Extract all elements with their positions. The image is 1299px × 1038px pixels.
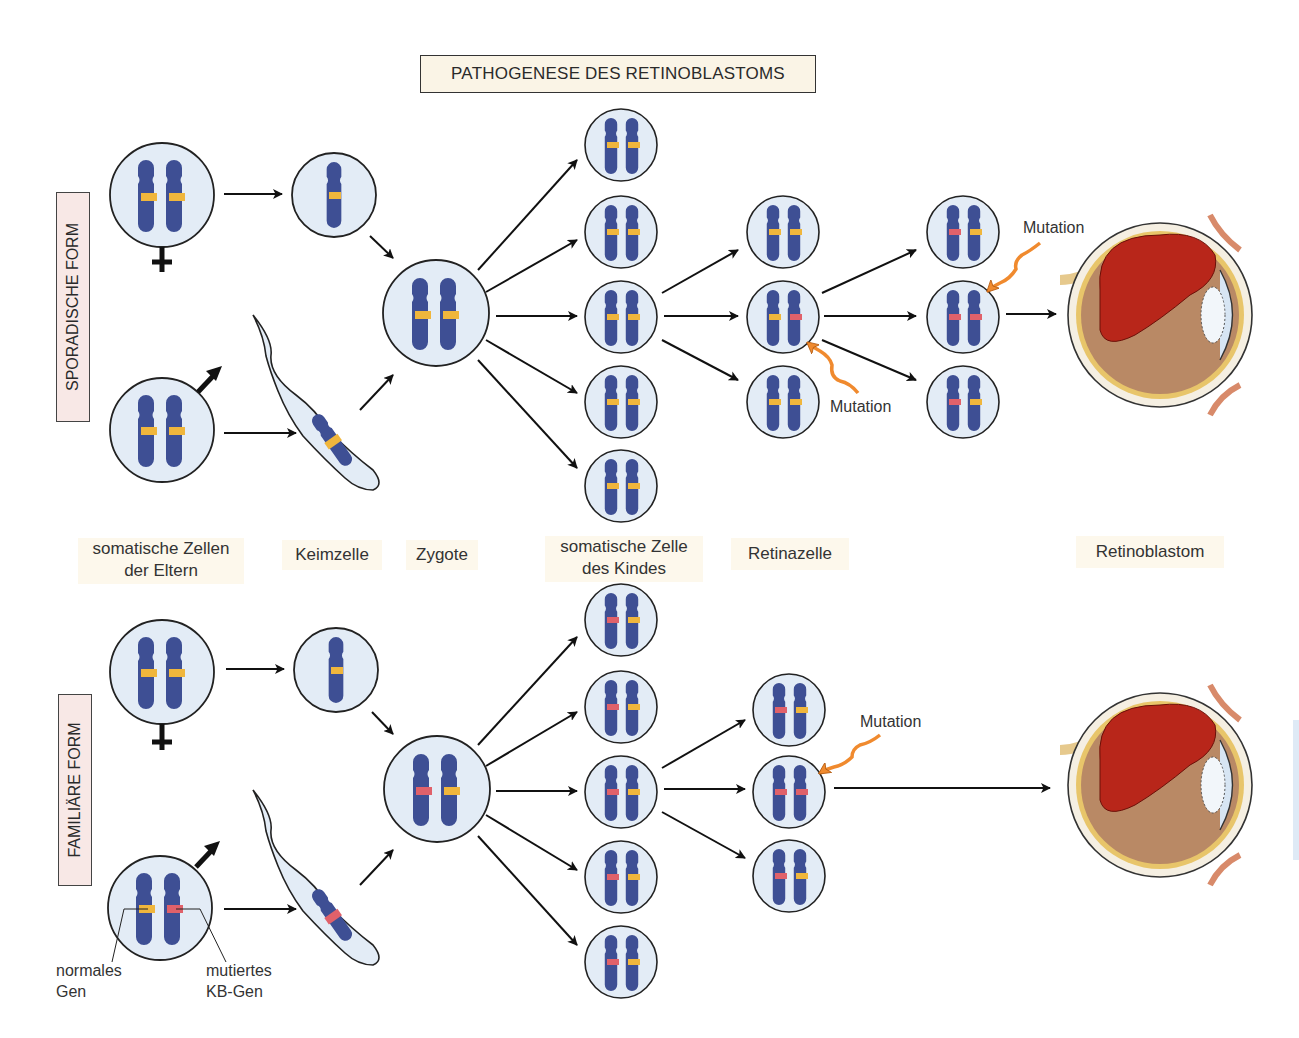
mutation-arrow-icon [820, 735, 880, 773]
diagram-title: PATHOGENESE DES RETINOBLASTOMS [420, 55, 816, 93]
sporadic-row [110, 109, 1252, 522]
child-cell [585, 756, 657, 828]
retina-cell [753, 756, 825, 828]
male-symbol-icon [198, 366, 222, 392]
retina-cell [753, 840, 825, 912]
zygote-sporadic [383, 260, 489, 366]
retina-cells-familial [753, 674, 825, 912]
mutation-label: Mutation [830, 398, 891, 416]
edge-strip [1293, 720, 1299, 860]
stage-label-retina-cell: Retinazelle [731, 538, 849, 570]
female-symbol-icon [152, 247, 172, 272]
child-cell [585, 109, 657, 181]
mother-cell-familial [110, 620, 214, 750]
mutation-label: Mutation [860, 713, 921, 731]
father-cell-familial [108, 841, 226, 962]
stage-label-retinoblastoma: Retinoblastom [1076, 536, 1224, 568]
sperm-cell-sporadic [253, 315, 379, 490]
egg-cell-sporadic [292, 153, 376, 237]
child-cell [585, 366, 657, 438]
sporadic-form-label: SPORADISCHE FORM [56, 192, 90, 422]
retina-cell [747, 281, 819, 353]
normal-gene-label: normales Gen [56, 960, 122, 1002]
egg-cell-familial [294, 628, 378, 712]
child-cells-familial [585, 584, 657, 998]
child-cell [585, 671, 657, 743]
child-cells-sporadic [585, 109, 657, 522]
zygote-familial [384, 736, 490, 842]
child-cell [585, 584, 657, 656]
female-symbol-icon [152, 724, 172, 750]
familial-row [108, 584, 1252, 998]
retina-cell [747, 366, 819, 438]
stage-label-parents: somatische Zellen der Eltern [78, 538, 244, 584]
retina-cell [927, 196, 999, 268]
mutation-label: Mutation [1023, 219, 1084, 237]
eye-with-tumor-familial [1060, 685, 1252, 885]
sperm-cell-familial [253, 790, 379, 965]
retina-cells-sporadic-2 [927, 196, 999, 438]
child-cell [585, 841, 657, 913]
retina-cell [927, 366, 999, 438]
child-cell [585, 450, 657, 522]
male-symbol-icon [196, 841, 220, 867]
child-cell [585, 281, 657, 353]
child-cell [585, 926, 657, 998]
retina-cells-sporadic-1 [747, 196, 819, 438]
child-cell [585, 196, 657, 268]
mutation-arrow-icon [988, 243, 1040, 291]
mother-cell-sporadic [110, 143, 214, 272]
stage-label-zygote: Zygote [406, 540, 478, 570]
retina-cell [927, 281, 999, 353]
father-cell-sporadic [110, 366, 222, 482]
stage-label-germ-cell: Keimzelle [282, 540, 382, 570]
stage-label-child-cell: somatische Zelle des Kindes [545, 536, 703, 582]
retina-cell [753, 674, 825, 746]
familial-form-label: FAMILIÄRE FORM [58, 694, 92, 886]
pathogenesis-diagram [0, 0, 1299, 1038]
eye-with-tumor-sporadic [1060, 215, 1252, 415]
retina-cell [747, 196, 819, 268]
mutated-gene-label: mutiertes KB-Gen [206, 960, 272, 1002]
